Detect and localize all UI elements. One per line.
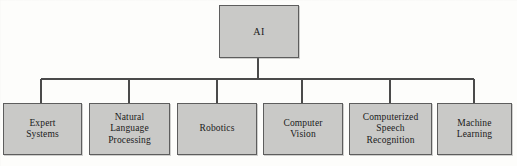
node-expert-systems-label: Expert Systems	[23, 118, 62, 141]
node-robotics-label: Robotics	[197, 123, 238, 135]
node-computer-vision[interactable]: Computer Vision	[263, 103, 343, 155]
node-computer-vision-label: Computer Vision	[280, 118, 325, 141]
node-natural-language-processing-label: Natural Language Processing	[105, 112, 154, 147]
node-natural-language-processing[interactable]: Natural Language Processing	[89, 103, 170, 155]
node-computerized-speech-recognition-label: Computerized Speech Recognition	[360, 112, 422, 147]
node-robotics[interactable]: Robotics	[177, 103, 257, 155]
node-computerized-speech-recognition[interactable]: Computerized Speech Recognition	[349, 103, 432, 155]
node-expert-systems[interactable]: Expert Systems	[3, 103, 82, 155]
node-ai-root[interactable]: AI	[219, 5, 299, 58]
node-machine-learning-label: Machine Learning	[454, 118, 496, 141]
ai-taxonomy-diagram: AI Expert Systems Natural Language Proce…	[0, 0, 517, 166]
node-ai-root-label: AI	[250, 26, 267, 38]
node-machine-learning[interactable]: Machine Learning	[437, 103, 512, 155]
